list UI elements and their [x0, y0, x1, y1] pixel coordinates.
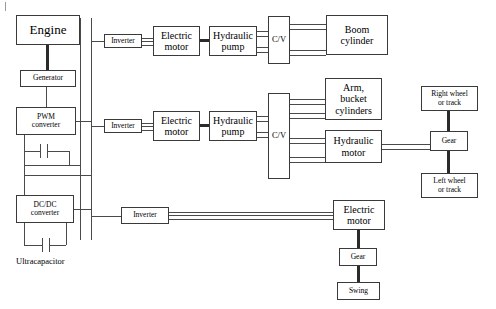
block-inverter-3-label: Inverter — [133, 211, 157, 219]
block-control-valve-1: C/V — [268, 16, 290, 64]
block-inverter-3: Inverter — [121, 207, 169, 224]
wire-cap-right-arm — [47, 151, 69, 152]
block-generator: Generator — [20, 70, 76, 87]
block-pwm-converter-label-line2: converter — [32, 121, 60, 129]
block-hydraulic-pump-1-label-line1: Hydraulic — [213, 30, 253, 41]
hydraulic-line-pump-2-cv-2-upper — [257, 116, 268, 122]
block-engine-label: Engine — [30, 23, 67, 38]
block-electric-motor-2-label-line1: Electric — [161, 115, 192, 126]
wire-cap-right-leg — [69, 151, 70, 165]
wire-cap-left-arm — [24, 151, 40, 152]
block-left-wheel-label-line2: or track — [438, 186, 461, 194]
block-left-wheel-or-track: Left wheel or track — [421, 173, 478, 198]
block-electric-motor-2-label-line2: motor — [165, 126, 189, 137]
block-pwm-converter: PWM converter — [16, 107, 76, 135]
block-generator-label: Generator — [33, 74, 63, 82]
block-control-valve-2: C/V — [268, 93, 290, 179]
block-dcdc-converter: DC/DC converter — [16, 195, 74, 223]
block-electric-motor-1-label-line1: Electric — [161, 30, 192, 41]
dc-rail-lower — [24, 175, 91, 176]
capacitor-plate-right — [47, 144, 48, 158]
wire-generator-pwm — [46, 87, 47, 107]
dc-rail-upper — [24, 165, 80, 166]
ultracapacitor-label: Ultracapacitor — [16, 256, 65, 266]
block-arm-bucket-label-line2: bucket — [340, 93, 367, 104]
dc-bus-line-inner — [80, 18, 81, 240]
wire-bus-to-inverter-3 — [91, 216, 121, 217]
hydraulic-line-cv-2-hydmotor-upper — [290, 138, 325, 144]
three-phase-line-inverter-3-motor-3 — [169, 212, 333, 220]
block-control-valve-1-label: C/V — [272, 35, 286, 45]
wire-uc-left-arm — [24, 245, 42, 246]
ultracapacitor-plate-left — [42, 238, 43, 252]
wire-pwm-cap-left-leg — [24, 135, 25, 151]
block-boom-cylinder: Boom cylinder — [326, 15, 388, 55]
hydraulic-line-cv-2-arm-upper — [290, 99, 325, 105]
wire-rail-to-dcdc — [24, 175, 25, 195]
dc-bus-line-outer — [91, 18, 92, 240]
wire-dcdc-uc-right-leg — [66, 223, 67, 245]
wire-bus-to-inverter-1 — [91, 41, 104, 42]
block-arm-bucket-cylinders: Arm, bucket cylinders — [325, 78, 382, 120]
wire-dcdc-uc-left-leg — [24, 223, 25, 245]
block-inverter-1: Inverter — [104, 34, 142, 48]
block-engine: Engine — [16, 15, 80, 45]
link-hydmotor-travel-gear — [382, 144, 430, 150]
block-electric-motor-2: Electric motor — [153, 111, 200, 141]
block-swing-label: Swing — [349, 287, 368, 295]
block-hydraulic-pump-2-label-line1: Hydraulic — [213, 115, 253, 126]
wire-bus-to-inverter-2 — [91, 126, 104, 127]
hydraulic-line-cv-1-boom-upper — [290, 24, 326, 30]
block-hydraulic-pump-2: Hydraulic pump — [209, 111, 257, 141]
block-hydraulic-pump-1-label-line2: pump — [222, 41, 245, 52]
block-boom-cylinder-label-line1: Boom — [345, 24, 369, 35]
three-phase-line-inverter-1-motor-1 — [142, 38, 153, 46]
wire-pwm-to-bus — [76, 121, 92, 122]
ultracapacitor-plate-right — [49, 238, 50, 252]
block-gear-travel: Gear — [430, 131, 468, 151]
block-control-valve-2-label: C/V — [272, 131, 286, 141]
three-phase-line-inverter-2-motor-2 — [142, 123, 153, 131]
block-boom-cylinder-label-line2: cylinder — [341, 35, 374, 46]
capacitor-plate-left — [40, 144, 41, 158]
block-swing: Swing — [337, 282, 380, 300]
shaft-gear-swing-swing — [357, 266, 360, 282]
shaft-gear-right-wheel — [447, 111, 450, 131]
block-arm-bucket-label-line3: cylinders — [335, 105, 372, 116]
hydraulic-line-pump-2-cv-2-lower — [257, 132, 268, 138]
wire-bus-inner-row3 — [80, 209, 91, 210]
block-electric-motor-1-label-line2: motor — [165, 41, 189, 52]
block-hydraulic-motor-label-line2: motor — [342, 147, 366, 158]
block-electric-motor-1: Electric motor — [153, 26, 200, 56]
block-hydraulic-pump-1: Hydraulic pump — [209, 26, 257, 56]
page-tick-mark — [5, 2, 6, 11]
shaft-engine-generator — [46, 45, 49, 70]
block-hydraulic-motor-label-line1: Hydraulic — [334, 135, 374, 146]
block-gear-travel-label: Gear — [442, 137, 457, 145]
block-hydraulic-motor: Hydraulic motor — [325, 130, 382, 163]
hydraulic-line-cv-2-arm-lower — [290, 113, 325, 119]
hydraulic-line-cv-1-boom-lower — [290, 50, 326, 56]
shaft-motor-3-gear-swing — [357, 230, 360, 248]
shaft-motor-1-pump-1 — [200, 39, 209, 42]
block-gear-swing-label: Gear — [351, 253, 366, 261]
wire-bus-drop-row3 — [91, 209, 92, 217]
hydraulic-line-cv-2-hydmotor-lower — [290, 157, 325, 163]
wire-dc-rail-left-riser — [24, 151, 25, 175]
block-hydraulic-pump-2-label-line2: pump — [222, 126, 245, 137]
shaft-gear-left-wheel — [447, 151, 450, 173]
block-electric-motor-3-label-line1: Electric — [343, 204, 374, 215]
block-electric-motor-3-label-line2: motor — [347, 215, 371, 226]
block-inverter-2: Inverter — [104, 119, 142, 133]
block-electric-motor-3: Electric motor — [333, 200, 385, 230]
block-gear-swing: Gear — [339, 248, 377, 266]
wire-uc-right-arm — [49, 245, 66, 246]
block-inverter-2-label: Inverter — [111, 122, 135, 130]
block-diagram-canvas: Engine Generator PWM converter DC/DC con… — [0, 0, 496, 309]
block-dcdc-converter-label-line2: converter — [31, 209, 59, 217]
block-right-wheel-or-track: Right wheel or track — [421, 86, 478, 111]
hydraulic-line-pump-1-cv-1-upper — [257, 31, 268, 37]
hydraulic-line-pump-1-cv-1-lower — [257, 47, 268, 53]
block-arm-bucket-label-line1: Arm, — [343, 82, 364, 93]
shaft-motor-2-pump-2 — [200, 124, 209, 127]
